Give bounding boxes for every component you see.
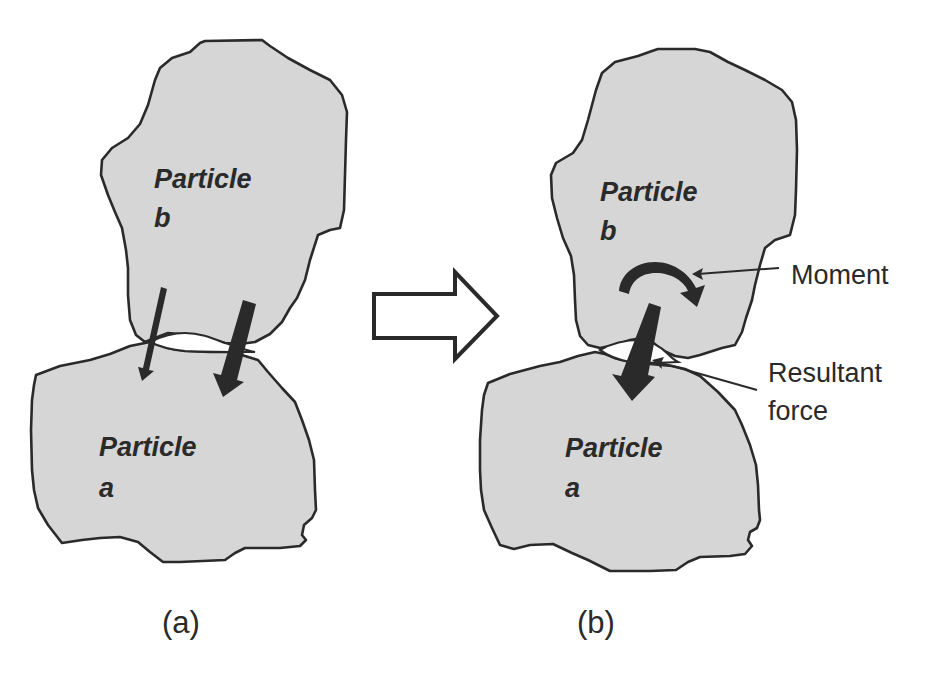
caption-b: (b) <box>577 605 615 640</box>
particle-b-label-line1: Particle <box>154 164 252 194</box>
panel-b: Particle b Particle a Moment Resultant f… <box>480 49 889 640</box>
resultant-force-label-line2: force <box>768 396 828 426</box>
particle-a-label-line1: Particle <box>565 433 663 463</box>
particle-contact-diagram: Particle b Particle a (a) Particle b Par… <box>0 0 938 675</box>
particle-a-label-line2: a <box>99 473 114 503</box>
moment-label: Moment <box>791 260 889 290</box>
transition-arrow-icon <box>374 272 497 359</box>
particle-b-label-line2: b <box>600 216 617 246</box>
caption-a: (a) <box>162 605 200 640</box>
particle-b-label-line1: Particle <box>600 177 698 207</box>
particle-a-label-line2: a <box>565 473 580 503</box>
resultant-force-label-line1: Resultant <box>768 358 883 388</box>
particle-b-label-line2: b <box>154 203 171 233</box>
panel-a: Particle b Particle a (a) <box>31 40 347 640</box>
particle-a-label-line1: Particle <box>99 432 197 462</box>
